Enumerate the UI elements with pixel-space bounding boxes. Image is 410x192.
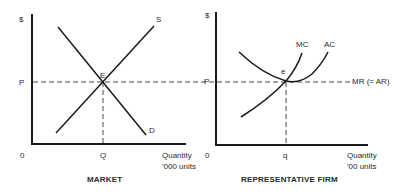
- market-y-axis-label: $: [19, 15, 24, 24]
- firm-y-axis-label: $: [205, 11, 210, 20]
- perfect-competition-diagram: $ P 0 Q E S D Quantity '000 units MARKET…: [0, 0, 410, 192]
- market-x-axis-label-line2: '000 units: [162, 162, 196, 171]
- firm-x-axis-label-line2: '00 units: [347, 162, 377, 171]
- mr-label: MR (= AR): [352, 77, 390, 86]
- mc-label: MC: [296, 40, 309, 49]
- market-x-axis-label-line1: Quantity: [162, 151, 192, 160]
- market-origin-label: 0: [20, 151, 25, 160]
- demand-label: D: [149, 126, 155, 135]
- demand-curve: [58, 27, 146, 135]
- firm-origin-label: 0: [205, 151, 210, 160]
- firm-equilibrium-label: e: [281, 67, 286, 76]
- firm-price-label: P: [204, 77, 209, 86]
- firm-caption: REPRESENTATIVE FIRM: [241, 175, 338, 184]
- firm-panel: $ P 0 q e MC AC MR (= AR) Quantity '00 u…: [204, 11, 408, 184]
- firm-x-axis-label-line1: Quantity: [347, 151, 377, 160]
- market-quantity-label: Q: [100, 151, 106, 160]
- market-price-label: P: [19, 78, 24, 87]
- market-caption: MARKET: [87, 175, 122, 184]
- ac-label: AC: [324, 40, 335, 49]
- supply-label: S: [156, 15, 161, 24]
- firm-quantity-label: q: [283, 151, 287, 160]
- market-equilibrium-label: E: [100, 71, 105, 80]
